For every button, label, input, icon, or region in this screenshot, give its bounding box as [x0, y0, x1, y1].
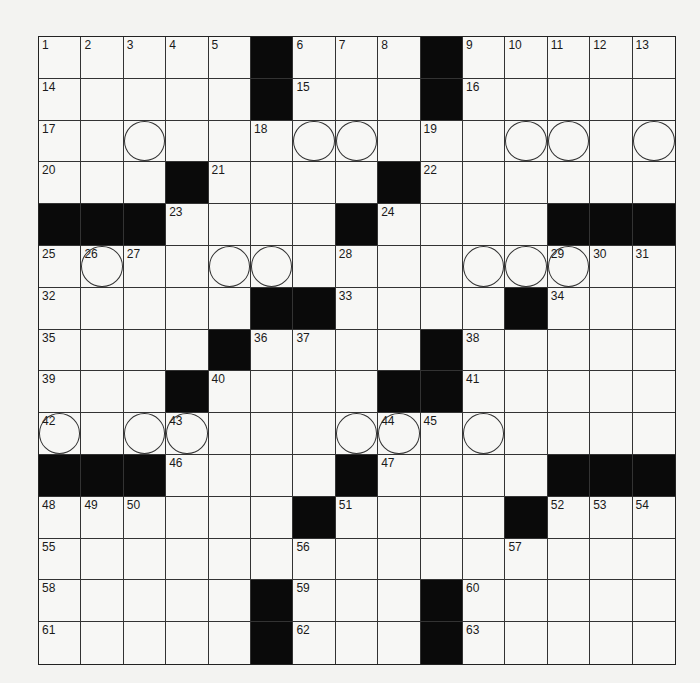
grid-cell[interactable] — [209, 288, 251, 330]
grid-cell[interactable] — [633, 622, 675, 664]
grid-cell[interactable]: 28 — [336, 246, 378, 288]
grid-cell[interactable]: 17 — [39, 121, 81, 163]
grid-cell[interactable] — [421, 204, 463, 246]
grid-cell[interactable] — [336, 539, 378, 581]
grid-cell[interactable] — [633, 330, 675, 372]
grid-cell[interactable]: 26 — [81, 246, 123, 288]
grid-cell[interactable] — [166, 330, 208, 372]
grid-cell[interactable] — [505, 162, 547, 204]
grid-cell[interactable] — [548, 413, 590, 455]
grid-cell[interactable] — [378, 79, 420, 121]
grid-cell[interactable] — [378, 580, 420, 622]
grid-cell[interactable]: 2 — [81, 37, 123, 79]
grid-cell[interactable]: 3 — [124, 37, 166, 79]
grid-cell[interactable] — [378, 330, 420, 372]
grid-cell[interactable] — [81, 413, 123, 455]
grid-cell[interactable] — [166, 539, 208, 581]
grid-cell[interactable] — [548, 539, 590, 581]
grid-cell[interactable] — [124, 330, 166, 372]
grid-cell[interactable]: 52 — [548, 497, 590, 539]
grid-cell[interactable]: 4 — [166, 37, 208, 79]
grid-cell[interactable]: 14 — [39, 79, 81, 121]
grid-cell[interactable] — [336, 79, 378, 121]
grid-cell[interactable] — [81, 371, 123, 413]
grid-cell[interactable] — [209, 246, 251, 288]
grid-cell[interactable] — [505, 246, 547, 288]
grid-cell[interactable]: 34 — [548, 288, 590, 330]
grid-cell[interactable] — [378, 121, 420, 163]
grid-cell[interactable] — [421, 539, 463, 581]
grid-cell[interactable] — [336, 622, 378, 664]
grid-cell[interactable] — [548, 330, 590, 372]
grid-cell[interactable]: 23 — [166, 204, 208, 246]
grid-cell[interactable]: 43 — [166, 413, 208, 455]
grid-cell[interactable] — [124, 79, 166, 121]
grid-cell[interactable]: 6 — [293, 37, 335, 79]
grid-cell[interactable]: 31 — [633, 246, 675, 288]
grid-cell[interactable] — [590, 79, 632, 121]
grid-cell[interactable]: 27 — [124, 246, 166, 288]
grid-cell[interactable] — [590, 288, 632, 330]
grid-cell[interactable] — [548, 622, 590, 664]
grid-cell[interactable] — [463, 288, 505, 330]
grid-cell[interactable] — [124, 121, 166, 163]
grid-cell[interactable] — [81, 622, 123, 664]
grid-cell[interactable] — [378, 288, 420, 330]
grid-cell[interactable]: 62 — [293, 622, 335, 664]
grid-cell[interactable] — [124, 539, 166, 581]
grid-cell[interactable] — [505, 204, 547, 246]
grid-cell[interactable]: 42 — [39, 413, 81, 455]
grid-cell[interactable] — [463, 539, 505, 581]
grid-cell[interactable] — [505, 371, 547, 413]
grid-cell[interactable] — [463, 455, 505, 497]
grid-cell[interactable]: 39 — [39, 371, 81, 413]
grid-cell[interactable]: 29 — [548, 246, 590, 288]
grid-cell[interactable]: 38 — [463, 330, 505, 372]
grid-cell[interactable] — [421, 246, 463, 288]
grid-cell[interactable] — [633, 580, 675, 622]
grid-cell[interactable]: 25 — [39, 246, 81, 288]
grid-cell[interactable] — [463, 162, 505, 204]
grid-cell[interactable]: 60 — [463, 580, 505, 622]
grid-cell[interactable]: 54 — [633, 497, 675, 539]
grid-cell[interactable] — [81, 580, 123, 622]
grid-cell[interactable] — [166, 246, 208, 288]
grid-cell[interactable]: 15 — [293, 79, 335, 121]
grid-cell[interactable]: 36 — [251, 330, 293, 372]
grid-cell[interactable] — [293, 162, 335, 204]
grid-cell[interactable] — [505, 79, 547, 121]
grid-cell[interactable] — [548, 162, 590, 204]
grid-cell[interactable] — [166, 121, 208, 163]
grid-cell[interactable]: 45 — [421, 413, 463, 455]
grid-cell[interactable]: 58 — [39, 580, 81, 622]
grid-cell[interactable] — [251, 497, 293, 539]
grid-cell[interactable] — [251, 539, 293, 581]
grid-cell[interactable]: 35 — [39, 330, 81, 372]
grid-cell[interactable]: 22 — [421, 162, 463, 204]
grid-cell[interactable] — [633, 121, 675, 163]
grid-cell[interactable] — [548, 371, 590, 413]
grid-cell[interactable] — [209, 204, 251, 246]
grid-cell[interactable]: 57 — [505, 539, 547, 581]
grid-cell[interactable] — [505, 580, 547, 622]
grid-cell[interactable] — [421, 455, 463, 497]
grid-cell[interactable] — [293, 246, 335, 288]
grid-cell[interactable]: 41 — [463, 371, 505, 413]
grid-cell[interactable]: 51 — [336, 497, 378, 539]
grid-cell[interactable] — [421, 497, 463, 539]
grid-cell[interactable] — [166, 497, 208, 539]
grid-cell[interactable]: 30 — [590, 246, 632, 288]
grid-cell[interactable]: 33 — [336, 288, 378, 330]
grid-cell[interactable] — [590, 371, 632, 413]
grid-cell[interactable] — [590, 330, 632, 372]
grid-cell[interactable] — [336, 162, 378, 204]
grid-cell[interactable] — [463, 121, 505, 163]
grid-cell[interactable]: 37 — [293, 330, 335, 372]
grid-cell[interactable] — [209, 413, 251, 455]
grid-cell[interactable] — [505, 455, 547, 497]
grid-cell[interactable] — [505, 121, 547, 163]
grid-cell[interactable]: 53 — [590, 497, 632, 539]
grid-cell[interactable]: 55 — [39, 539, 81, 581]
grid-cell[interactable] — [463, 246, 505, 288]
grid-cell[interactable]: 63 — [463, 622, 505, 664]
